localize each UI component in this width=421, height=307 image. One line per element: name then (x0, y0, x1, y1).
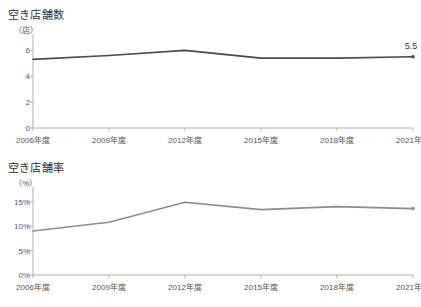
x-axis-tick-label: 2021年度 (396, 281, 421, 292)
x-axis-tick-label: 2006年度 (16, 134, 50, 145)
data-point-label: 5.5 (405, 41, 418, 51)
x-axis-tick-label: 2018年度 (320, 281, 354, 292)
x-axis-tick-label: 2018年度 (320, 134, 354, 145)
x-axis-tick-label: 2015年度 (244, 281, 278, 292)
x-axis-tick-label: 2012年度 (168, 281, 202, 292)
chart-block-vacancy-rate: 空き店舗率 （%） 0%5%10%15% 2006年度2009年度2012年度2… (0, 153, 421, 306)
x-axis-tick-label: 2012年度 (168, 134, 202, 145)
x-axis-tick-label: 2009年度 (92, 281, 126, 292)
x-axis-tick-label: 2009年度 (92, 134, 126, 145)
x-axis-ticks-vacancy-rate: 2006年度2009年度2012年度2015年度2018年度2021年度 (0, 153, 421, 306)
chart-block-store-count: 空き店舗数 （店） 0246 2006年度2009年度2012年度2015年度2… (0, 0, 421, 153)
x-axis-tick-label: 2015年度 (244, 134, 278, 145)
x-axis-tick-label: 2006年度 (16, 281, 50, 292)
x-axis-ticks-store-count: 2006年度2009年度2012年度2015年度2018年度2021年度 (0, 0, 421, 153)
x-axis-tick-label: 2021年度 (396, 134, 421, 145)
